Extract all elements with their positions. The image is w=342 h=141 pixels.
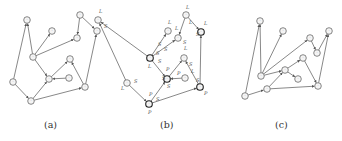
node-label: ·: [309, 36, 310, 40]
edge-n7-n8: [288, 72, 295, 77]
edge-n10-n11: [15, 84, 28, 98]
caption-a: (a): [44, 119, 57, 130]
edge-n3-n6: [36, 39, 74, 55]
node-label: ·: [184, 76, 185, 80]
edge-label: P: [147, 109, 152, 115]
edge-label: P: [176, 70, 181, 76]
edge-n4-n11: [311, 41, 315, 50]
edge-label: L: [185, 4, 190, 10]
node-label: ·: [167, 29, 168, 33]
graph-panel-b: ············LSSSSLSLLLLSLSLSPSSPLSPSLPPS: [95, 4, 208, 115]
edge-n3-n2: [35, 34, 50, 54]
edge-label: L: [98, 8, 103, 14]
node-label: ·: [316, 51, 317, 55]
edge-n3-n1: [28, 24, 33, 54]
caption-b: (b): [160, 119, 174, 130]
edge-label: S: [104, 23, 108, 29]
edge-label: S: [167, 83, 171, 89]
edge-label: L: [203, 20, 208, 26]
edge-label: L: [120, 85, 125, 91]
graph-panel-c: ············: [242, 18, 333, 100]
node-label: ·: [199, 85, 200, 89]
edge-label: S: [162, 75, 166, 81]
edge-label: S: [156, 96, 160, 102]
node-label: ·: [317, 84, 318, 88]
node-label: ·: [302, 56, 303, 60]
node-label: ·: [282, 29, 283, 33]
edge-n3-n1: [101, 22, 147, 56]
edge-label: L: [147, 63, 152, 69]
edge-n10-n1: [246, 25, 260, 93]
node-label: ·: [284, 68, 285, 72]
node-label: ·: [148, 102, 149, 106]
node-label: ·: [12, 80, 13, 84]
edge-label: S: [164, 46, 168, 52]
node-label: ·: [48, 77, 49, 81]
node-label: ·: [32, 55, 33, 59]
edge-n11-n8: [33, 82, 47, 99]
edge-n10-n1: [14, 24, 26, 79]
edge-label: S: [158, 41, 162, 47]
edge-n6-n12: [305, 61, 317, 83]
edge-n9-n12: [270, 86, 314, 89]
edge-n4-n6: [179, 18, 185, 34]
node-label: ·: [69, 57, 70, 61]
node-label: ·: [177, 36, 178, 40]
caption-c: (c): [275, 119, 288, 130]
node-label: ·: [68, 76, 69, 80]
node-label: ·: [244, 94, 245, 98]
edge-n7-n6: [288, 60, 300, 68]
edge-n12-n5: [86, 35, 97, 84]
edge-label: L: [188, 19, 193, 25]
edge-n4-n5: [82, 17, 94, 28]
edge-n3-n1: [260, 25, 261, 73]
edge-n9-n8: [171, 78, 182, 79]
edge-n12-n7: [72, 62, 84, 84]
edge-n12-n5: [200, 36, 201, 84]
edge-label: L: [183, 45, 188, 51]
node-label: ·: [51, 29, 52, 33]
node-label: ·: [266, 87, 267, 91]
node-label: ·: [76, 36, 77, 40]
edge-label: S: [158, 58, 162, 64]
edge-label: L: [167, 19, 172, 25]
edge-n4-n6: [77, 18, 79, 34]
edge-n10-n1: [100, 23, 126, 80]
node-label: ·: [328, 29, 329, 33]
node-label: ·: [126, 81, 127, 85]
edge-label: P: [165, 66, 170, 72]
node-label: ·: [30, 99, 31, 103]
node-label: ·: [97, 18, 98, 22]
edge-n9-n7: [269, 73, 282, 87]
edge-n11-n12: [34, 88, 81, 100]
edge-n9-n8: [53, 78, 66, 79]
edge-n10-n11: [129, 85, 146, 101]
edge-label: S: [196, 31, 200, 37]
node-label: ·: [96, 29, 97, 33]
node-label: ·: [259, 19, 260, 23]
node-label: ·: [260, 74, 261, 78]
edge-label: P: [203, 90, 208, 96]
edge-label: L: [190, 68, 195, 74]
edge-n8-n7: [51, 62, 67, 77]
node-label: ·: [149, 56, 150, 60]
node-label: ·: [79, 13, 80, 17]
edge-n10-n9: [248, 90, 263, 95]
edge-label: S: [134, 78, 138, 84]
edge-label: S: [156, 50, 160, 56]
edge-label: S: [189, 61, 193, 67]
edge-label: L: [174, 25, 179, 31]
node-label: ·: [183, 56, 184, 60]
graph-panel-a: ············: [10, 12, 101, 105]
node-label: ·: [26, 18, 27, 22]
node-label: ·: [84, 85, 85, 89]
node-label: ·: [200, 30, 201, 34]
edge-label: P: [148, 91, 153, 97]
edge-label: S: [196, 77, 200, 83]
node-label: ·: [166, 77, 167, 81]
node-label: ·: [185, 13, 186, 17]
edge-n3-n8: [35, 60, 47, 76]
node-label: ·: [297, 77, 298, 81]
